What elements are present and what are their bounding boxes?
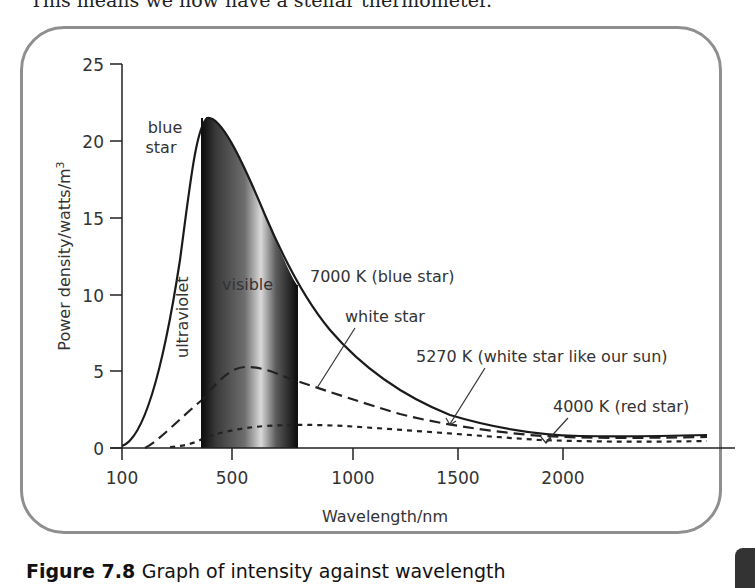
visible-band: [202, 100, 297, 448]
y-tick-15: 15: [82, 209, 104, 229]
x-tick-1500: 1500: [436, 468, 479, 488]
label-4000k: 4000 K (red star): [553, 397, 689, 416]
x-tick-2000: 2000: [541, 468, 584, 488]
label-blue-star-line2: star: [146, 138, 177, 157]
label-visible: visible: [222, 275, 273, 294]
figure-caption: Figure 7.8 Graph of intensity against wa…: [26, 560, 506, 582]
y-axis: [110, 64, 122, 448]
caption-label: Figure 7.8: [26, 560, 135, 582]
label-7000k: 7000 K (blue star): [310, 267, 455, 286]
page-side-tab: [735, 548, 755, 588]
y-tick-20: 20: [82, 132, 104, 152]
pointer-4000k: [546, 418, 568, 442]
label-5270k: 5270 K (white star like our sun): [416, 347, 668, 366]
x-axis: [110, 448, 735, 460]
caption-text: Graph of intensity against wavelength: [142, 560, 506, 582]
y-tick-10: 10: [82, 286, 104, 306]
label-ultraviolet: ultraviolet: [173, 276, 192, 358]
svg-text:ultraviolet: ultraviolet: [173, 276, 192, 358]
label-blue-star-line1: blue: [148, 118, 183, 137]
y-axis-title: Power density/watts/m3: [54, 161, 74, 350]
svg-text:Power density/watts/m3: Power density/watts/m3: [54, 161, 74, 350]
x-tick-1000: 1000: [331, 468, 374, 488]
x-axis-title: Wavelength/nm: [322, 507, 448, 526]
x-tick-500: 500: [216, 468, 248, 488]
pointer-5270k: [450, 368, 485, 424]
y-tick-0: 0: [93, 439, 104, 459]
y-tick-25: 25: [82, 55, 104, 75]
y-tick-5: 5: [93, 362, 104, 382]
label-white-star: white star: [345, 307, 425, 326]
x-tick-100: 100: [106, 468, 138, 488]
